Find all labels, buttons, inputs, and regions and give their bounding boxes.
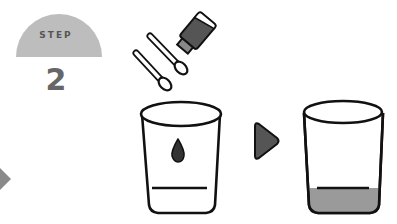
previous-arrow-icon — [0, 168, 11, 190]
dropper-bottle-icon — [174, 11, 217, 56]
cup-after-icon — [304, 101, 383, 213]
cup-before-icon — [141, 102, 221, 213]
step-number: 2 — [36, 65, 76, 95]
next-arrow-icon — [255, 123, 279, 158]
step-label: STEP — [28, 30, 84, 40]
